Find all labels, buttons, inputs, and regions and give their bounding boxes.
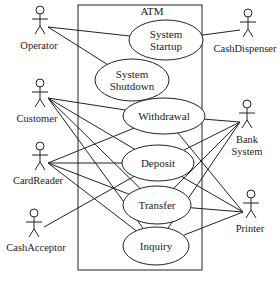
use-case-shutdown: SystemShutdown xyxy=(95,59,169,101)
stick-figure-icon xyxy=(240,9,256,37)
use-case-label: Deposit xyxy=(141,157,175,169)
actor-cashacceptor: CashAcceptor xyxy=(6,209,66,253)
system-label: ATM xyxy=(140,5,163,17)
actor-label: Printer xyxy=(236,223,265,234)
stick-figure-icon xyxy=(32,142,48,170)
stick-figure-icon xyxy=(32,79,48,107)
association-customer-withdrawal xyxy=(48,98,125,110)
use-case-transfer: Transfer xyxy=(123,186,191,224)
use-case-label: Inquiry xyxy=(140,240,173,252)
association-cashdispenser-startup xyxy=(202,30,240,35)
actor-label: CashAcceptor xyxy=(6,242,66,253)
use-case-label: Withdrawal xyxy=(138,110,189,122)
association-cardreader-inquiry xyxy=(48,163,136,231)
actor-label: Bank xyxy=(236,134,259,145)
use-case-label: Shutdown xyxy=(110,80,155,92)
actor-label: CardReader xyxy=(13,175,64,186)
use-case-label: Transfer xyxy=(139,199,176,211)
actor-cardreader: CardReader xyxy=(13,142,64,186)
stick-figure-icon xyxy=(26,209,42,237)
use-case-label: System xyxy=(116,68,149,80)
actor-label: CashDispenser xyxy=(214,43,277,54)
use-case-label: System xyxy=(150,28,183,40)
use-case-diagram: ATM SystemStartupSystemShutdownWithdrawa… xyxy=(0,0,280,281)
actor-label: Customer xyxy=(17,113,58,124)
use-case-deposit: Deposit xyxy=(122,145,194,181)
actor-cashdispenser: CashDispenser xyxy=(214,9,277,54)
actor-label: Operator xyxy=(20,40,58,51)
association-banksystem-withdrawal xyxy=(204,119,240,122)
use-case-label: Startup xyxy=(150,40,182,52)
stick-figure-icon xyxy=(32,6,48,34)
association-printer-inquiry xyxy=(183,212,243,235)
stick-figure-icon xyxy=(239,100,255,128)
association-printer-transfer xyxy=(191,208,243,212)
actor-label: System xyxy=(232,146,263,157)
association-customer-deposit xyxy=(48,98,135,149)
use-case-withdrawal: Withdrawal xyxy=(123,98,205,134)
stick-figure-icon xyxy=(243,190,259,218)
actor-operator: Operator xyxy=(20,6,58,51)
use-case-startup: SystemStartup xyxy=(129,20,203,60)
use-case-inquiry: Inquiry xyxy=(123,227,189,265)
association-cardreader-withdrawal xyxy=(48,128,134,163)
use-cases: SystemStartupSystemShutdownWithdrawalDep… xyxy=(95,20,205,265)
